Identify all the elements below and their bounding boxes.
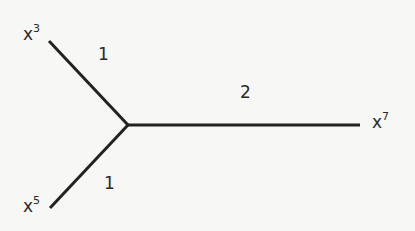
edge-x3-center: [49, 41, 128, 125]
node-x5-base: x: [23, 196, 33, 216]
node-x7: x7: [372, 114, 389, 131]
tree-diagram: [0, 0, 415, 231]
node-x5-exp: 5: [33, 194, 40, 207]
node-x3-base: x: [23, 24, 33, 44]
node-x3: x3: [23, 26, 40, 43]
node-x7-exp: 7: [382, 110, 389, 123]
edge-weight-x7: 2: [240, 84, 251, 101]
node-x3-exp: 3: [33, 22, 40, 35]
node-x5: x5: [23, 198, 40, 215]
node-x7-base: x: [372, 112, 382, 132]
edge-weight-x3: 1: [98, 46, 109, 63]
edge-weight-x5: 1: [104, 175, 115, 192]
edge-x5-center: [50, 125, 128, 208]
